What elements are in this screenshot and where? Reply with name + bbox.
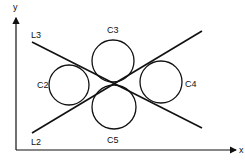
axes: x y: [13, 2, 244, 155]
circle-c5-label: C5: [107, 135, 119, 145]
circle-c2: [49, 65, 89, 105]
circle-c5: [92, 85, 136, 129]
circle-c4-label: C4: [185, 79, 197, 89]
circle-c4: [140, 61, 182, 103]
tangent-circles-diagram: x y L3 L2 C2 C3 C4 C5: [0, 0, 245, 161]
y-axis-label: y: [13, 2, 18, 12]
line-l3-label: L3: [31, 30, 41, 40]
x-axis-label: x: [239, 145, 244, 155]
circle-c3: [92, 40, 134, 82]
circle-c2-label: C2: [37, 80, 49, 90]
line-l2-label: L2: [31, 137, 41, 147]
circles: C2 C3 C4 C5: [37, 25, 197, 145]
circle-c3-label: C3: [107, 25, 119, 35]
